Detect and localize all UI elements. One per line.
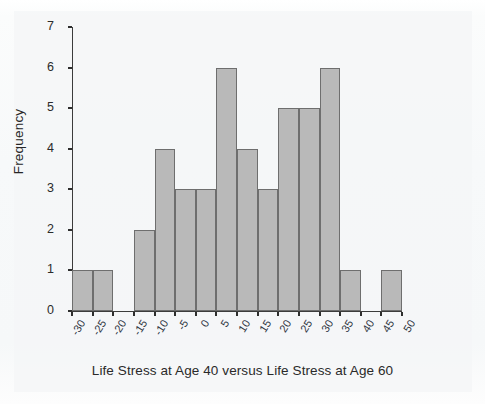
y-tick-label-2: 2 [38,223,54,236]
histogram-bar [381,270,402,311]
histogram-bar [258,189,279,311]
x-tick-mark-35 [339,312,341,316]
x-tick-mark--25 [92,312,94,316]
x-tick-mark-25 [298,312,300,316]
histogram-bar [278,108,299,311]
histogram-bar [216,68,237,311]
histogram-bars [72,27,402,311]
x-tick-mark-20 [277,312,279,316]
y-tick-label-0: 0 [38,304,54,317]
x-tick-mark-5 [215,312,217,316]
histogram-bar [175,189,196,311]
x-tick-mark-45 [380,312,382,316]
x-tick-mark-50 [401,312,403,316]
x-tick-mark-15 [257,312,259,316]
x-tick-mark-10 [236,312,238,316]
y-tick-label-6: 6 [38,61,54,74]
histogram-bar [196,189,217,311]
histogram-bar [320,68,341,311]
y-tick-label-5: 5 [38,101,54,114]
x-tick-mark-0 [195,312,197,316]
y-tick-label-1: 1 [38,263,54,276]
histogram-bar [93,270,114,311]
histogram-bar [72,270,93,311]
histogram-bar [237,149,258,311]
chart-title: Life Stress at Age 40 versus Life Stress… [0,363,485,378]
plot-area: 01234567 Frequency -30-25-20-15-10-50510… [0,0,485,404]
x-tick-mark--20 [112,312,114,316]
histogram-bar [134,230,155,311]
histogram-bar [340,270,361,311]
x-tick-mark--30 [71,312,73,316]
x-tick-mark-40 [360,312,362,316]
x-tick-mark--15 [133,312,135,316]
y-tick-label-4: 4 [38,142,54,155]
histogram-bar [299,108,320,311]
y-tick-label-3: 3 [38,182,54,195]
histogram-figure: 01234567 Frequency -30-25-20-15-10-50510… [0,0,485,404]
x-tick-mark-30 [319,312,321,316]
histogram-bar [155,149,176,311]
y-axis-label: Frequency [11,62,26,222]
y-tick-label-7: 7 [38,20,54,33]
x-tick-mark--5 [174,312,176,316]
x-tick-mark--10 [154,312,156,316]
